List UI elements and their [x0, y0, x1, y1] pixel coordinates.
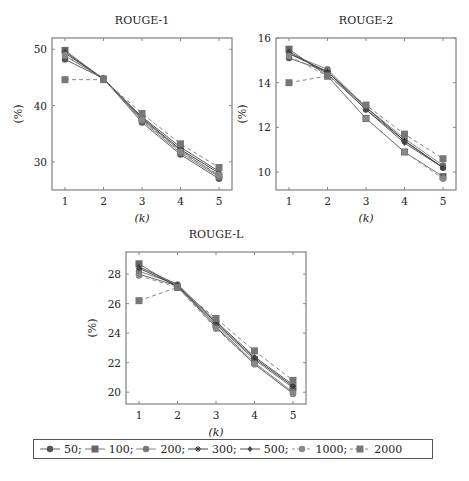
- y-axis-label: (%): [236, 104, 249, 123]
- x-axis-label: (k): [134, 212, 149, 225]
- diamond-marker-icon: [239, 444, 261, 454]
- legend-item: 1000;: [291, 443, 348, 456]
- y-axis-label: (%): [86, 318, 99, 337]
- legend-label: 100;: [109, 443, 134, 456]
- x-tick-label: 3: [139, 195, 146, 207]
- chart-legend: 50;100;200;300;500;1000;2000: [33, 439, 433, 459]
- y-tick-label: 30: [34, 156, 47, 168]
- star-marker-icon: [187, 444, 209, 454]
- legend-items: 50;100;200;300;500;1000;2000: [34, 440, 432, 458]
- x-tick-label: 1: [62, 195, 69, 207]
- y-tick-label: 16: [258, 32, 272, 44]
- square-marker-icon: [84, 444, 106, 454]
- legend-item: 200;: [135, 443, 185, 456]
- legend-label: 200;: [160, 443, 185, 456]
- y-tick-label: 22: [108, 357, 121, 369]
- y-tick-label: 28: [108, 268, 121, 280]
- square-marker-icon: [349, 444, 371, 454]
- x-tick-label: 2: [100, 195, 107, 207]
- x-tick-label: 4: [401, 195, 408, 207]
- chart-title: ROUGE-1: [115, 14, 169, 27]
- circle-marker-icon: [135, 444, 157, 454]
- x-tick-label: 5: [290, 409, 297, 421]
- legend-item: 300;: [187, 443, 237, 456]
- y-tick-label: 24: [108, 327, 122, 339]
- y-tick-label: 20: [108, 386, 121, 398]
- x-tick-label: 2: [174, 409, 181, 421]
- y-tick-label: 40: [34, 100, 47, 112]
- chart-rouge-l: ROUGE-L123452022242628(k)(%): [86, 228, 306, 439]
- legend-label: 1000;: [316, 443, 348, 456]
- x-tick-label: 2: [324, 195, 331, 207]
- series-2000: [136, 284, 297, 384]
- series-1000: [136, 272, 296, 396]
- x-tick-label: 5: [440, 195, 447, 207]
- series-100: [286, 46, 447, 180]
- x-tick-label: 1: [136, 409, 143, 421]
- legend-item: 2000: [349, 443, 402, 456]
- legend-item: 500;: [239, 443, 289, 456]
- circle-marker-icon: [39, 444, 61, 454]
- x-tick-label: 4: [177, 195, 184, 207]
- charts-canvas: ROUGE-112345304050(k)(%)ROUGE-2123451012…: [0, 0, 469, 481]
- x-tick-label: 5: [216, 195, 223, 207]
- chart-title: ROUGE-2: [339, 14, 393, 27]
- y-tick-label: 10: [258, 166, 271, 178]
- legend-item: 50;: [39, 443, 82, 456]
- legend-label: 2000: [374, 443, 402, 456]
- x-tick-label: 4: [251, 409, 258, 421]
- legend-label: 300;: [212, 443, 237, 456]
- chart-rouge-1: ROUGE-112345304050(k)(%): [12, 14, 232, 225]
- legend-label: 500;: [264, 443, 289, 456]
- x-axis-label: (k): [208, 426, 223, 439]
- y-tick-label: 26: [108, 298, 122, 310]
- y-tick-label: 50: [34, 43, 47, 55]
- x-axis-label: (k): [358, 212, 373, 225]
- series-1000: [286, 53, 446, 182]
- x-tick-label: 1: [286, 195, 293, 207]
- y-tick-label: 14: [258, 77, 272, 89]
- x-tick-label: 3: [363, 195, 370, 207]
- y-tick-label: 12: [258, 121, 271, 133]
- circle-marker-icon: [291, 444, 313, 454]
- y-axis-label: (%): [12, 104, 25, 123]
- legend-item: 100;: [84, 443, 134, 456]
- chart-title: ROUGE-L: [189, 228, 244, 241]
- x-tick-label: 3: [213, 409, 220, 421]
- legend-label: 50;: [64, 443, 82, 456]
- chart-rouge-2: ROUGE-21234510121416(k)(%): [236, 14, 456, 225]
